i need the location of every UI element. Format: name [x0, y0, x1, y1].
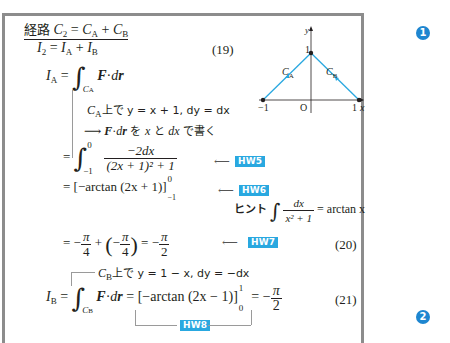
hw7-badge[interactable]: HW7: [248, 237, 278, 248]
arrow-left-icon: ⟵: [222, 236, 238, 249]
hint-rhs: = arctan x: [317, 202, 365, 216]
eq21-rhs: [−arctan (2x − 1)]: [138, 289, 238, 304]
hw5-badge[interactable]: HW5: [235, 156, 265, 167]
hint-fraction: dx x² + 1: [283, 196, 314, 225]
hint-label: ヒント: [234, 203, 267, 216]
arrow-right-icon: ⟶: [84, 124, 101, 138]
ia-definition: IA = ∫CA F·dr: [46, 62, 124, 94]
step2-text: = [−arctan (2x + 1)]: [63, 179, 167, 194]
origin-label: O: [300, 102, 307, 113]
note1-text: 上で y = x + 1, dy = dx: [102, 104, 230, 117]
curve-a-sub: A: [289, 72, 294, 80]
section-heading: 経路 C2 = CA + CB: [24, 19, 128, 40]
x-tick-neg1: −1: [258, 102, 269, 113]
step1-fraction: −2dx (2x + 1)² + 1: [104, 144, 176, 173]
marker-badge-2: 2: [416, 310, 430, 324]
y-axis-arrow: [309, 26, 313, 31]
guide-line-ib-top: [71, 272, 95, 273]
path-diagram: [255, 25, 365, 115]
curve-cb-label: CB: [326, 66, 337, 80]
note-write-in-x: ⟶ F·dr を x と dx で書く: [84, 122, 216, 139]
hw8-bracket-left: [135, 310, 136, 325]
step1-integral: = ∫ 0 −1 −2dx (2x + 1)² + 1: [63, 140, 177, 176]
upper-limit: 0: [87, 140, 92, 150]
curve-b-var: C: [326, 66, 333, 77]
lower-limit: −1: [168, 193, 177, 202]
hw6-badge[interactable]: HW6: [239, 185, 269, 196]
arrow-left-icon: ⟵: [214, 155, 230, 168]
hw8-bracket-right: [251, 310, 252, 325]
equation-number-21: (21): [335, 292, 357, 308]
curve-ca-label: CA: [282, 66, 294, 80]
equation-20: = −π4 + (−π4) = −π2: [63, 230, 169, 259]
curve-b-sub: B: [333, 72, 338, 80]
equation-21: IB = ∫CB F·dr = [−arctan (2x − 1)] 1 0 =…: [46, 283, 282, 315]
y-axis-label: y: [305, 25, 309, 35]
denominator: x² + 1: [283, 211, 314, 225]
note-cb-substitution: CB上で y = 1 − x, dy = −dx: [98, 264, 249, 282]
note-ca-substitution: CA上で y = x + 1, dy = dx: [87, 101, 230, 119]
marker-badge-1: 1: [416, 26, 430, 40]
upper-limit: 0: [168, 174, 173, 184]
denominator: (2x + 1)² + 1: [104, 159, 176, 173]
x-axis-label: x: [360, 102, 364, 113]
heading-label: 経路: [24, 22, 50, 37]
upper-limit: 1: [239, 283, 244, 293]
equation-number-20: (20): [335, 237, 357, 253]
equation-19: I2 = IA + IB: [37, 40, 98, 57]
hw8-bracket-bottom-left: [135, 325, 177, 326]
arrow-left-icon: ⟵: [218, 184, 234, 197]
curve-a-var: C: [282, 66, 289, 77]
equation-number-19: (19): [212, 42, 234, 58]
hint: ヒント ∫ dx x² + 1 = arctan x: [234, 196, 365, 225]
x-tick-1: 1: [352, 102, 357, 113]
lower-limit: −1: [83, 166, 93, 176]
numerator: dx: [283, 196, 314, 211]
note3-text: 上で y = 1 − x, dy = −dx: [112, 267, 249, 280]
numerator: −2dx: [104, 144, 176, 159]
y-tick-1: 1: [305, 44, 310, 55]
lower-limit: 0: [239, 303, 244, 313]
step2-antiderivative: = [−arctan (2x + 1)] 0 −1: [63, 178, 179, 198]
hw8-bracket-bottom-right: [208, 325, 251, 326]
hw8-badge[interactable]: HW8: [180, 320, 210, 331]
